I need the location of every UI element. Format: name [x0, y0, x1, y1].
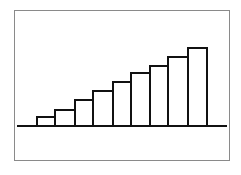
bar-8 [168, 57, 188, 126]
bar-chart [0, 0, 241, 175]
bar-2 [55, 110, 75, 126]
bar-6 [131, 73, 150, 126]
bar-1 [37, 117, 55, 126]
bar-5 [113, 82, 131, 126]
bar-7 [150, 66, 168, 126]
bar-3 [75, 100, 93, 126]
bar-4 [93, 91, 113, 126]
bar-9 [188, 48, 207, 126]
